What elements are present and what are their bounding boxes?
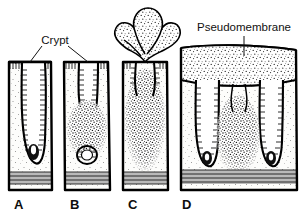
histology-diagram: Crypt Pseudomembrane A B C D — [0, 0, 302, 217]
panel-d-pseudomembrane — [181, 45, 296, 86]
panel-b-exudate — [62, 96, 114, 168]
pseudomembrane-label: Pseudomembrane — [197, 21, 291, 33]
panel-a — [9, 62, 52, 190]
panel-letter-a: A — [14, 197, 24, 212]
panel-a-muscularis — [9, 172, 52, 184]
panel-d-muscularis — [181, 170, 297, 184]
panel-c-exudate-column — [120, 62, 172, 172]
panel-c — [115, 8, 181, 190]
panel-letter-d: D — [182, 197, 191, 212]
panel-d — [181, 45, 297, 190]
panel-d-central-exudate — [210, 84, 268, 180]
panel-letter-b: B — [70, 197, 79, 212]
panel-b-muscularis — [65, 172, 109, 184]
figure-container: Crypt Pseudomembrane A B C D — [0, 0, 302, 217]
panel-letter-c: C — [128, 197, 138, 212]
crypt-label: Crypt — [41, 34, 69, 46]
panel-c-muscularis — [123, 172, 168, 184]
panel-b — [62, 62, 114, 190]
